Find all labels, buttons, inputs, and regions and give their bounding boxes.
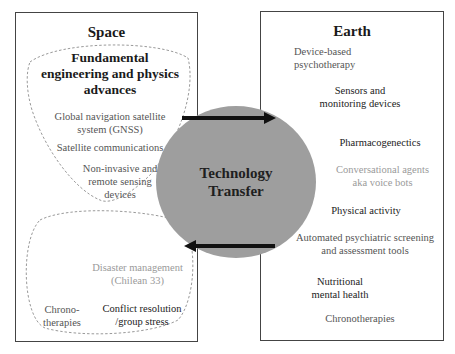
disaster-management-item: Disaster management (Chilean 33) [80, 261, 195, 287]
sensors-monitoring-item: Sensors and monitoring devices [300, 84, 420, 110]
satellite-communications-item: Satellite communications [30, 141, 190, 154]
conflict-resolution-item: Conflict resolution /group stress [92, 302, 192, 328]
conversational-agents-item: Conversational agents aka voice bots [320, 163, 445, 189]
earth-title: Earth [260, 23, 444, 40]
gnss-item: Global navigation satellite system (GNSS… [30, 110, 190, 136]
physical-activity-item: Physical activity [306, 204, 426, 217]
chronotherapies-earth-item: Chronotherapies [300, 312, 420, 325]
fundamental-heading: Fundamental engineering and physics adva… [30, 50, 190, 98]
space-title: Space [15, 24, 198, 41]
technology-transfer-label: Technology Transfer [176, 164, 296, 200]
pharmacogenetics-item: Pharmacogenectics [320, 136, 440, 149]
automated-screening-item: Automated psychiatric screening and asse… [290, 231, 440, 257]
device-psychotherapy-item: Device-based psychotherapy [280, 45, 394, 71]
chronotherapies-space-item: Chrono- therapies [32, 303, 92, 329]
nutritional-mental-health-item: Nutritional mental health [300, 275, 380, 301]
